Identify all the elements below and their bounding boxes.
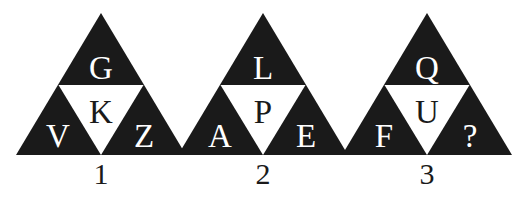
triangle-1-left-letter: V	[30, 120, 86, 153]
triangle-1-right-letter: Z	[116, 120, 172, 153]
triangle-2-number: 2	[176, 159, 350, 189]
triangle-figure-1: G K V Z 1	[14, 0, 188, 199]
triangle-2-right-letter: E	[278, 120, 334, 153]
triangle-figure-3: Q U F ? 3	[340, 0, 514, 199]
triangle-2-left-letter: A	[192, 120, 248, 153]
triangle-1-top-letter: G	[14, 52, 188, 85]
triangle-3-missing-letter: ?	[442, 120, 498, 153]
triangle-figure-2: L P A E 2	[176, 0, 350, 199]
triangle-2-top-letter: L	[176, 52, 350, 85]
triangle-3-left-letter: F	[356, 120, 412, 153]
triangle-3-top-letter: Q	[340, 52, 514, 85]
puzzle-triangle-row: G K V Z 1 L P A E 2 Q U F ? 3	[0, 0, 531, 199]
triangle-1-number: 1	[14, 159, 188, 189]
triangle-3-number: 3	[340, 159, 514, 189]
